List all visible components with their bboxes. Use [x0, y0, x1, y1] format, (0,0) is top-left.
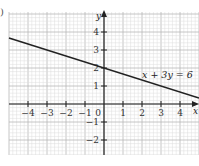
y-tick-label: −1 — [86, 117, 99, 127]
y-axis-label: y — [95, 11, 102, 21]
y-axis-arrow-icon — [101, 10, 107, 17]
x-tick-label: 1 — [120, 108, 126, 118]
equation-label: x + 3y = 6 — [142, 69, 193, 80]
graph: −4−3−2−101234−2−11234 yxx + 3y = 6 — [0, 0, 199, 166]
x-tick-label: 3 — [158, 108, 164, 118]
x-tick-label: −4 — [21, 108, 35, 118]
y-tick-label: 1 — [93, 81, 99, 91]
y-tick-label: 4 — [93, 27, 99, 37]
x-tick-label: −3 — [40, 108, 54, 118]
x-tick-label: 4 — [177, 108, 183, 118]
x-axis-label: x — [193, 106, 198, 116]
y-tick-label: 3 — [93, 45, 99, 55]
x-tick-label: −2 — [59, 108, 72, 118]
y-tick-label: −2 — [86, 135, 99, 145]
x-tick-label: 2 — [139, 108, 145, 118]
